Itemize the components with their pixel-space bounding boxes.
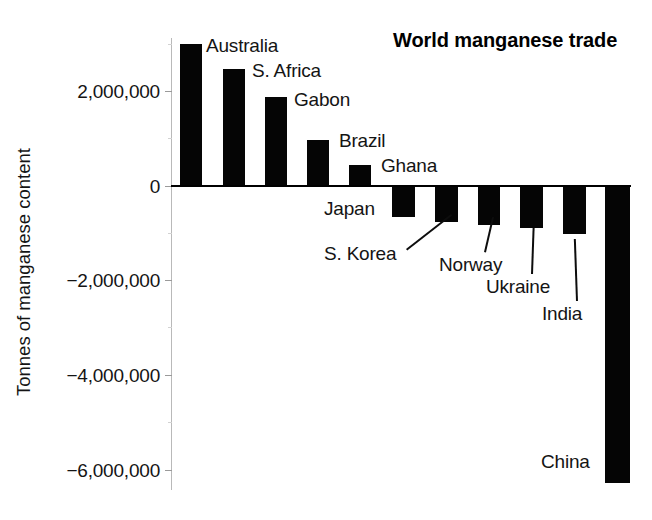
bar-gabon[interactable] <box>265 97 287 186</box>
bar-brazil[interactable] <box>307 140 329 186</box>
leader-line-ukraine <box>531 228 535 274</box>
y-axis-tick-minus2m <box>165 280 172 281</box>
y-axis-tick-minus6m <box>165 470 172 471</box>
bar-label-ukraine: Ukraine <box>486 277 550 297</box>
bar-label-australia: Australia <box>206 36 278 56</box>
plot-area: 2,000,000 0 −2,000,000 −4,000,000 −6,000… <box>0 0 652 520</box>
y-tick-label-minus6m: −6,000,000 <box>28 461 160 480</box>
bar-label-ghana: Ghana <box>381 156 437 176</box>
bar-label-gabon: Gabon <box>294 90 350 110</box>
y-axis-tick-2000000 <box>165 91 172 92</box>
bar-label-norway: Norway <box>439 255 502 275</box>
bar-china[interactable] <box>605 187 630 483</box>
bar-australia[interactable] <box>180 44 202 186</box>
bar-label-japan: Japan <box>324 199 375 219</box>
chart-title: World manganese trade <box>393 29 617 51</box>
bar-label-s-africa: S. Africa <box>252 61 321 81</box>
bar-ukraine[interactable] <box>520 187 543 228</box>
y-tick-label-minus2m: −2,000,000 <box>28 271 160 290</box>
y-axis-minor-tick <box>168 138 172 139</box>
bar-s-africa[interactable] <box>223 69 245 186</box>
bar-ghana[interactable] <box>349 165 371 186</box>
bar-label-india: India <box>542 304 582 324</box>
y-axis-minor-tick <box>168 422 172 423</box>
bar-norway[interactable] <box>478 187 500 225</box>
bar-india[interactable] <box>563 187 586 234</box>
bar-label-s-korea: S. Korea <box>324 244 396 264</box>
leader-line-s-korea <box>406 214 452 251</box>
y-tick-label-minus4m: −4,000,000 <box>28 366 160 385</box>
bar-japan[interactable] <box>392 187 415 217</box>
y-tick-label-2000000: 2,000,000 <box>28 82 160 101</box>
y-axis-minor-tick <box>168 233 172 234</box>
y-tick-label-0: 0 <box>28 177 160 196</box>
zero-baseline <box>171 185 631 187</box>
bar-label-china: China <box>541 452 590 472</box>
y-axis-minor-tick <box>168 327 172 328</box>
y-axis-tick-minus4m <box>165 375 172 376</box>
y-axis-title: Tonnes of manganese content <box>14 148 33 396</box>
chart-screenshot: 2,000,000 0 −2,000,000 −4,000,000 −6,000… <box>0 0 652 520</box>
leader-line-india <box>574 239 578 301</box>
y-axis-minor-tick <box>168 44 172 45</box>
bar-label-brazil: Brazil <box>339 131 385 151</box>
